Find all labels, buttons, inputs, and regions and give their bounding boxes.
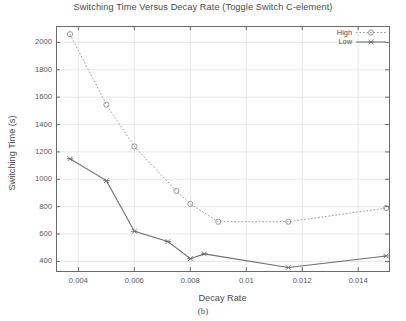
legend-marker-low	[368, 40, 374, 45]
y-tick-label: 2000	[18, 37, 52, 46]
y-tick-label: 1200	[18, 147, 52, 156]
y-tick-label: 800	[18, 202, 52, 211]
x-tick-label: 0.014	[335, 276, 381, 285]
legend-label-high: High	[318, 28, 352, 37]
series-low	[67, 156, 390, 270]
y-axis-tick-labels: 400600800100012001400160018002000	[14, 0, 52, 321]
x-tick-label: 0.006	[111, 276, 157, 285]
y-tick-label: 1800	[18, 65, 52, 74]
y-tick-label: 1400	[18, 120, 52, 129]
figure-caption: (b)	[0, 306, 406, 316]
y-tick-label: 1600	[18, 92, 52, 101]
chart-title: Switching Time Versus Decay Rate (Toggle…	[0, 2, 406, 12]
y-tick-label: 1000	[18, 174, 52, 183]
chart-figure: Switching Time Versus Decay Rate (Toggle…	[0, 0, 406, 321]
x-tick-label: 0.008	[167, 276, 213, 285]
y-tick-label: 600	[18, 229, 52, 238]
x-tick-label: 0.004	[55, 276, 101, 285]
x-tick-label: 0.012	[279, 276, 325, 285]
y-tick-label: 400	[18, 256, 52, 265]
legend-label-low: Low	[318, 37, 352, 46]
x-axis-label: Decay Rate	[56, 293, 389, 303]
plot-canvas	[0, 0, 406, 321]
series-high	[67, 32, 388, 225]
x-tick-label: 0.01	[223, 276, 269, 285]
